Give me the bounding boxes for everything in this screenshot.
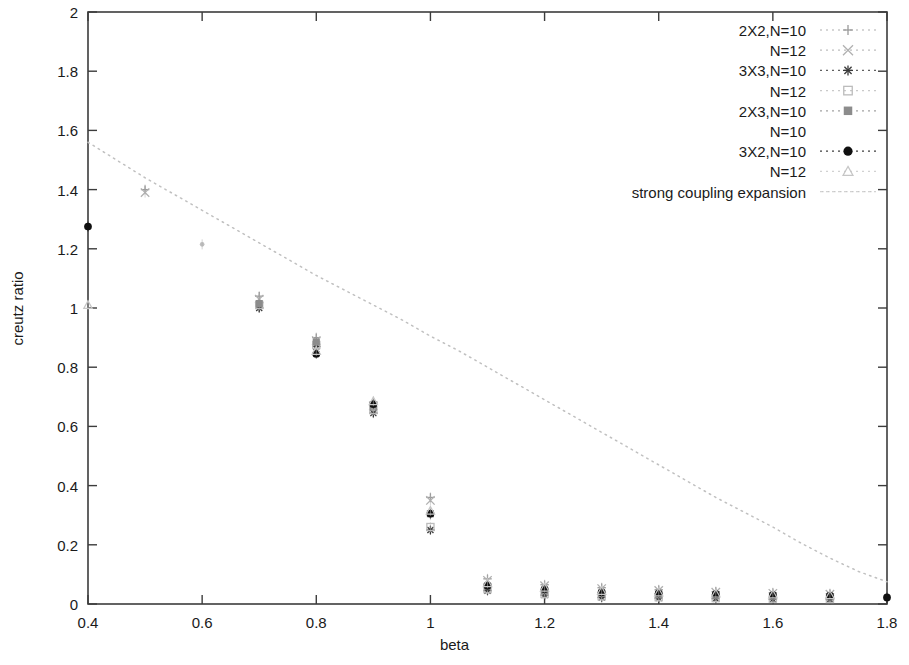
- plot-area: [0, 0, 909, 665]
- series-0: [141, 185, 834, 599]
- legend-item-label: 3X3,N=10: [420, 62, 806, 79]
- y-tick-label: 0.2: [18, 536, 78, 553]
- legend-item-marker: [820, 65, 876, 75]
- legend-item-marker: [820, 107, 876, 116]
- y-tick-label: 1.4: [18, 181, 78, 198]
- series-3: [256, 300, 834, 604]
- data-point: [369, 396, 377, 406]
- x-tick-label: 1.6: [762, 614, 783, 631]
- y-tick-label: 0.6: [18, 418, 78, 435]
- legend-item-label: 2X2,N=10: [420, 22, 806, 39]
- data-point: [84, 300, 92, 310]
- y-tick-label: 1.8: [18, 63, 78, 80]
- series-4: [256, 299, 834, 602]
- axes-frame: [88, 12, 887, 604]
- strong-coupling-expansion-curve: [88, 142, 887, 582]
- legend-item-marker: [820, 86, 876, 95]
- axis-ticks: [88, 12, 887, 604]
- legend-item-marker: [820, 25, 876, 35]
- y-tick-label: 1.6: [18, 122, 78, 139]
- x-tick-label: 1.4: [648, 614, 669, 631]
- x-tick-label: 1.2: [534, 614, 555, 631]
- data-point: [712, 589, 720, 599]
- series-6: [84, 222, 891, 603]
- legend-item-label: strong coupling expansion: [420, 183, 806, 200]
- data-point: [84, 222, 92, 232]
- x-tick-label: 0.4: [78, 614, 99, 631]
- data-point: [426, 495, 434, 505]
- data-point: [483, 578, 491, 588]
- series-7: [84, 300, 834, 600]
- data-points-layer: [84, 185, 891, 605]
- x-tick-label: 1: [426, 614, 434, 631]
- x-tick-label: 0.6: [192, 614, 213, 631]
- y-tick-label: 0.4: [18, 477, 78, 494]
- legend-item-marker: [820, 166, 876, 175]
- series-2: [255, 303, 834, 605]
- legend-item-label: N=12: [420, 42, 806, 59]
- y-tick-label: 0: [18, 596, 78, 613]
- x-tick-label: 1.8: [877, 614, 898, 631]
- data-point: [141, 188, 149, 198]
- series-1: [141, 188, 834, 600]
- data-point: [883, 592, 891, 602]
- legend-item-label: 2X3,N=10: [420, 102, 806, 119]
- y-tick-label: 1.2: [18, 240, 78, 257]
- data-point: [256, 299, 263, 309]
- y-tick-label: 2: [18, 4, 78, 21]
- series-5: [200, 239, 832, 602]
- data-point: [426, 506, 434, 516]
- legend-item-label: N=12: [420, 163, 806, 180]
- x-tick-label: 0.8: [306, 614, 327, 631]
- legend-item-label: N=12: [420, 82, 806, 99]
- y-tick-label: 0.8: [18, 359, 78, 376]
- legend-item-marker: [820, 147, 876, 156]
- legend-item-label: 3X2,N=10: [420, 143, 806, 160]
- legend-item-marker: [820, 45, 876, 55]
- legend-item-label: N=10: [420, 123, 806, 140]
- legend-markers: [820, 25, 876, 192]
- creutz-ratio-chart: creutz ratio beta 00.20.40.60.811.21.41.…: [0, 0, 909, 665]
- y-tick-label: 1: [18, 300, 78, 317]
- data-point: [200, 239, 205, 249]
- data-point: [655, 587, 663, 597]
